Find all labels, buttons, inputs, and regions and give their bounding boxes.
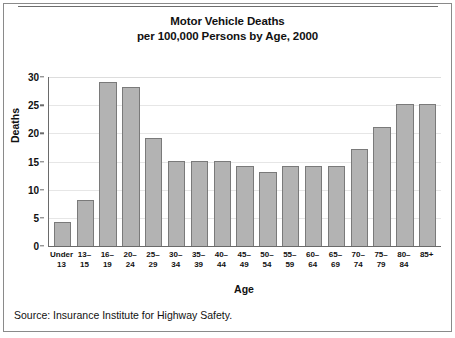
chart-figure: Motor Vehicle Deaths per 100,000 Persons… [0, 0, 455, 338]
y-tick-label: 5 [33, 212, 39, 223]
bar [396, 104, 413, 246]
bar-slot [188, 77, 211, 246]
bar [305, 166, 322, 246]
y-tick-mark [40, 245, 44, 246]
bar [282, 166, 299, 246]
bar [236, 166, 253, 246]
bar-slot [211, 77, 234, 246]
bar-series [49, 77, 441, 246]
bar [99, 82, 116, 246]
source-note: Source: Insurance Institute for Highway … [14, 309, 232, 321]
y-tick-label: 0 [33, 241, 39, 252]
chart-title-line2: per 100,000 Persons by Age, 2000 [0, 29, 455, 44]
x-tick-label: 65–69 [324, 250, 347, 270]
x-tick-label: 16–19 [96, 250, 119, 270]
y-tick-mark [40, 189, 44, 190]
x-tick-label: 30–34 [164, 250, 187, 270]
top-rule [18, 6, 438, 7]
y-tick-mark [40, 217, 44, 218]
bar [77, 200, 94, 246]
bar [351, 149, 368, 246]
bar [168, 161, 185, 246]
x-tick-label: 35–39 [187, 250, 210, 270]
x-tick-label: 85+ [415, 250, 438, 270]
bar [191, 161, 208, 246]
x-tick-label: Under13 [50, 250, 73, 270]
x-tick-label: 50–54 [256, 250, 279, 270]
y-tick-label: 10 [28, 184, 39, 195]
bar-slot [74, 77, 97, 246]
x-tick-label: 75–79 [370, 250, 393, 270]
chart-title: Motor Vehicle Deaths per 100,000 Persons… [0, 14, 455, 44]
bar [214, 161, 231, 246]
bar [259, 172, 276, 246]
y-tick-mark [40, 161, 44, 162]
y-tick-mark [40, 76, 44, 77]
bar-slot [165, 77, 188, 246]
bar-slot [279, 77, 302, 246]
x-tick-label: 45–49 [233, 250, 256, 270]
x-tick-label: 80–84 [393, 250, 416, 270]
bar-slot [371, 77, 394, 246]
bar-slot [142, 77, 165, 246]
bar-slot [348, 77, 371, 246]
x-tick-label: 25–29 [142, 250, 165, 270]
bar-slot [393, 77, 416, 246]
x-tick-label: 13–15 [73, 250, 96, 270]
bar [328, 166, 345, 246]
bar-slot [119, 77, 142, 246]
bar-slot [97, 77, 120, 246]
bar-slot [325, 77, 348, 246]
x-axis-ticks: Under1313–1516–1920–2425–2930–3435–3940–… [48, 250, 440, 270]
x-tick-label: 60–64 [301, 250, 324, 270]
y-tick-label: 20 [28, 128, 39, 139]
x-tick-label: 40–44 [210, 250, 233, 270]
bar-slot [51, 77, 74, 246]
bar-slot [302, 77, 325, 246]
y-tick-label: 30 [28, 72, 39, 83]
y-tick-mark [40, 133, 44, 134]
y-tick-mark [40, 104, 44, 105]
bar-slot [416, 77, 439, 246]
x-axis-title: Age [48, 283, 440, 295]
bar [145, 138, 162, 246]
bar-slot [256, 77, 279, 246]
bar [419, 104, 436, 246]
x-tick-label: 70–74 [347, 250, 370, 270]
bar [54, 222, 71, 246]
bar [373, 127, 390, 246]
chart-title-line1: Motor Vehicle Deaths [0, 14, 455, 29]
x-tick-label: 55–59 [278, 250, 301, 270]
y-tick-label: 25 [28, 100, 39, 111]
x-tick-label: 20–24 [119, 250, 142, 270]
bar [122, 87, 139, 246]
plot-area [48, 77, 441, 247]
bar-slot [234, 77, 257, 246]
y-axis-ticks: 051015202530 [0, 77, 44, 246]
y-tick-label: 15 [28, 156, 39, 167]
